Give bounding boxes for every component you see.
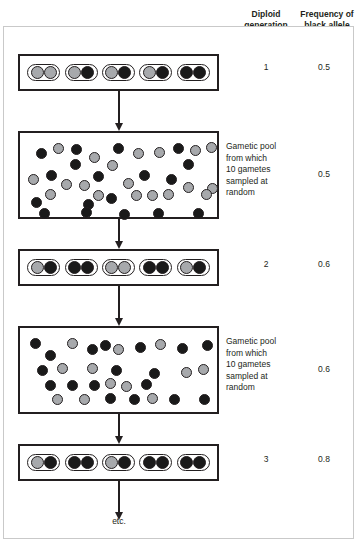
gamete-black [71,144,82,155]
generation-label-1: 1 [238,62,294,72]
gamete-gray [206,142,217,153]
gamete-gray [105,378,116,389]
gamete-gray [121,381,132,392]
gamete-gray [163,189,174,200]
gametic-pool-note-2: Gametic pool from which 10 gametes sampl… [226,336,296,394]
allele-black [81,261,94,274]
gamete-black [193,208,204,219]
allele-black [44,456,57,469]
gametic-pool-box-1 [18,131,219,219]
gamete-gray [147,190,158,201]
allele-black [193,66,206,79]
generation-box-1 [18,54,219,91]
gamete-black [177,343,188,354]
allele-gray [143,66,156,79]
allele-gray [44,66,57,79]
allele-gray [31,261,44,274]
gamete-gray [28,174,39,185]
gamete-black [173,143,184,154]
arrow-gen3-to-etc [118,481,120,513]
allele-black [156,66,169,79]
individual [27,64,60,81]
individual [65,259,98,276]
gamete-gray [107,160,118,171]
allele-gray [105,66,118,79]
allele-black [143,456,156,469]
gamete-black [46,170,57,181]
arrow-gen2-to-pool2 [118,286,120,319]
individual [139,64,172,81]
allele-black [180,456,193,469]
allele-black [68,261,81,274]
gamete-black [67,380,78,391]
individual [65,454,98,471]
frequency-label-pool-2: 0.6 [296,364,352,374]
gamete-black [169,394,180,405]
generation-box-3 [18,444,219,481]
allele-gray [31,456,44,469]
gamete-black [119,209,130,220]
gamete-gray [53,143,64,154]
gamete-black [36,148,47,159]
genetic-drift-figure: Diploid generation Frequency of black al… [0,0,361,552]
gamete-black [129,394,140,405]
individual [102,64,135,81]
individual [27,259,60,276]
gamete-black [31,197,42,208]
gamete-gray [79,394,90,405]
gamete-black [45,350,56,361]
gamete-gray [93,190,104,201]
gamete-gray [147,393,158,404]
gamete-gray [89,152,100,163]
allele-black [193,456,206,469]
frequency-label-pool-1: 0.5 [296,169,352,179]
gamete-gray [190,145,201,156]
generation-box-2 [18,249,219,286]
gamete-gray [45,189,56,200]
gamete-gray [201,189,212,200]
gamete-black [45,380,56,391]
gamete-gray [61,179,72,190]
individual [177,259,210,276]
gamete-gray [154,147,165,158]
allele-black [81,456,94,469]
gamete-black [100,340,111,351]
gamete-gray [52,394,63,405]
gamete-black [106,193,117,204]
individual [177,64,210,81]
allele-black [156,456,169,469]
gamete-black [199,394,210,405]
gamete-black [166,174,177,185]
allele-black [193,261,206,274]
allele-gray [105,456,118,469]
gamete-black [37,365,48,376]
allele-black [143,261,156,274]
generation-label-3: 3 [238,454,294,464]
gamete-gray [155,339,166,350]
gamete-gray [181,367,192,378]
gamete-gray [183,182,194,193]
arrow-gen1-to-pool1 [118,91,120,124]
gamete-gray [79,180,90,191]
gamete-black [111,365,122,376]
individual [27,454,60,471]
gamete-black [141,379,152,390]
generation-label-2: 2 [238,259,294,269]
gametic-pool-note-1: Gametic pool from which 10 gametes sampl… [226,141,296,199]
gamete-black [39,208,50,219]
gamete-black [139,170,150,181]
frequency-label-2: 0.6 [296,259,352,269]
gametic-pool-box-2 [18,326,219,414]
allele-black [118,456,131,469]
gamete-black [202,340,213,351]
gamete-black [81,207,92,218]
allele-black [68,456,81,469]
gamete-black [183,159,194,170]
gamete-gray [133,148,144,159]
gamete-gray [67,338,78,349]
etc-label: etc. [96,516,142,526]
gamete-gray [87,363,98,374]
individual [65,64,98,81]
allele-gray [118,261,131,274]
gamete-gray [131,190,142,201]
